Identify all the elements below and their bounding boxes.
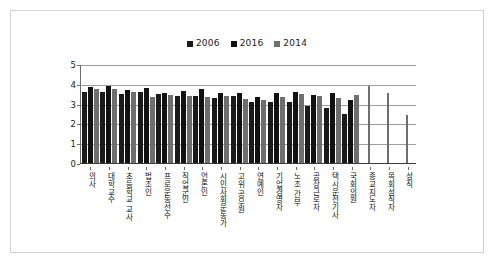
bar-group bbox=[360, 65, 379, 163]
legend-item-2016: 2016 bbox=[231, 39, 264, 48]
x-axis-tick-label: 기업경영자 bbox=[273, 172, 281, 211]
x-axis-tick-mark bbox=[90, 167, 91, 170]
x-axis-label-cell: 법조인 bbox=[137, 167, 156, 239]
bar-group bbox=[286, 65, 305, 163]
plot-area: 012345 bbox=[80, 65, 416, 164]
x-axis-tick-label: 연예인 bbox=[254, 172, 262, 195]
y-axis-tick-label: 2 bbox=[62, 120, 76, 128]
bar bbox=[280, 97, 285, 163]
x-axis-tick-mark bbox=[258, 167, 259, 170]
bar bbox=[348, 100, 353, 163]
y-axis-tick-label: 5 bbox=[62, 61, 76, 69]
bar bbox=[131, 92, 136, 163]
y-axis-tick-label: 3 bbox=[62, 101, 76, 109]
x-axis-tick-label: 의사 bbox=[86, 172, 94, 188]
bar bbox=[144, 88, 149, 163]
x-axis-label-cell: 성직 bbox=[398, 167, 417, 239]
legend-label-2016: 2016 bbox=[240, 39, 264, 48]
y-axis-tick-label: 0 bbox=[62, 160, 76, 168]
x-axis-label-cell: 고위 공무원 bbox=[230, 167, 249, 239]
bar bbox=[218, 93, 223, 163]
x-axis-tick-mark bbox=[221, 167, 222, 170]
x-axis-tick-label: 초등학교 교사 bbox=[124, 172, 132, 221]
x-axis-tick-label: 목회성직자 bbox=[385, 172, 393, 211]
bar bbox=[299, 94, 304, 163]
bar-group bbox=[230, 65, 249, 163]
x-axis-tick-label: 시민사회운동가 bbox=[217, 172, 225, 227]
x-axis-label-cell: 종교지도자 bbox=[361, 167, 380, 239]
bar bbox=[162, 93, 167, 163]
x-axis-tick-label: 직업군인 bbox=[180, 172, 188, 203]
bar bbox=[88, 87, 93, 163]
x-axis-tick-mark bbox=[352, 167, 353, 170]
bar bbox=[317, 96, 322, 163]
x-axis-label-cell: 대학교수 bbox=[100, 167, 119, 239]
legend-item-2014: 2014 bbox=[274, 39, 307, 48]
bar bbox=[82, 92, 87, 163]
bar-group bbox=[155, 65, 174, 163]
x-axis-tick-label: 대학교수 bbox=[105, 172, 113, 203]
legend-swatch-2006 bbox=[187, 41, 193, 47]
bar-group bbox=[323, 65, 342, 163]
x-axis-label-cell: 국회의원 bbox=[342, 167, 361, 239]
legend-label-2014: 2014 bbox=[283, 39, 307, 48]
x-axis-tick-label: 종교지도자 bbox=[366, 172, 374, 211]
y-axis-tick-label: 1 bbox=[62, 140, 76, 148]
bar bbox=[125, 90, 130, 163]
bar-group bbox=[100, 65, 119, 163]
bar-group bbox=[379, 65, 398, 163]
bar-series-container bbox=[81, 65, 416, 163]
bar bbox=[168, 95, 173, 163]
bar bbox=[330, 93, 335, 163]
x-axis-tick-mark bbox=[389, 167, 390, 170]
y-axis-tick-mark bbox=[77, 164, 80, 165]
x-axis-tick-mark bbox=[370, 167, 371, 170]
bar-group bbox=[248, 65, 267, 163]
bar-group bbox=[267, 65, 286, 163]
x-axis-label-cell: 연예인 bbox=[249, 167, 268, 239]
x-axis-tick-mark bbox=[408, 167, 409, 170]
x-axis-tick-mark bbox=[240, 167, 241, 170]
bar-group bbox=[342, 65, 361, 163]
x-axis-label-cell: 기업경영자 bbox=[268, 167, 287, 239]
chart-legend: 2006 2016 2014 bbox=[11, 39, 483, 48]
bar bbox=[156, 94, 161, 163]
x-axis-labels: 의사대학교수초등학교 교사법조인프로운동선수직업군인언론인시민사회운동가고위 공… bbox=[81, 167, 417, 239]
bar-group bbox=[193, 65, 212, 163]
bar bbox=[187, 96, 192, 163]
bar bbox=[354, 95, 359, 163]
bar bbox=[150, 97, 155, 163]
x-axis-tick-label: 고위 공무원 bbox=[236, 172, 244, 213]
x-axis-label-cell: 직업군인 bbox=[174, 167, 193, 239]
x-axis-tick-label: 노조 간부 bbox=[292, 172, 300, 205]
bar bbox=[249, 102, 254, 163]
chart-frame: 2006 2016 2014 012345 의사대학교수초등학교 교사법조인프로… bbox=[10, 10, 484, 253]
bar bbox=[311, 95, 316, 163]
bar bbox=[368, 86, 370, 163]
bar bbox=[181, 91, 186, 163]
bar bbox=[261, 100, 266, 163]
bar bbox=[106, 86, 111, 163]
bar bbox=[94, 89, 99, 163]
bar-group bbox=[304, 65, 323, 163]
bar bbox=[406, 115, 408, 163]
x-axis-tick-mark bbox=[314, 167, 315, 170]
x-axis-tick-label: 성직 bbox=[404, 172, 412, 188]
bar-group bbox=[174, 65, 193, 163]
bar bbox=[138, 92, 143, 163]
bar bbox=[231, 96, 236, 163]
legend-item-2006: 2006 bbox=[187, 39, 220, 48]
bar bbox=[274, 93, 279, 163]
x-axis-label-cell: 의사 bbox=[81, 167, 100, 239]
bar bbox=[387, 93, 389, 163]
bar bbox=[268, 102, 273, 163]
x-axis-label-cell: 시민사회운동가 bbox=[212, 167, 231, 239]
bar bbox=[205, 97, 210, 163]
bar bbox=[237, 93, 242, 163]
legend-swatch-2014 bbox=[274, 41, 280, 47]
x-axis-tick-label: 공장근로자 bbox=[310, 172, 318, 211]
x-axis-line bbox=[80, 163, 416, 164]
x-axis-tick-label: 택시운전기사 bbox=[329, 172, 337, 219]
bar bbox=[112, 89, 117, 163]
bar bbox=[324, 108, 329, 163]
